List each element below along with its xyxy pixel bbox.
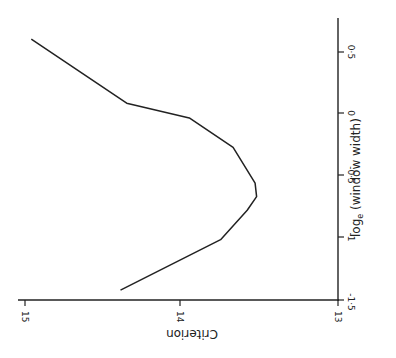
criterion-curve [31, 39, 256, 290]
y-axis-title: Criterion [166, 327, 218, 341]
x-tick-label: 0·5 [346, 45, 356, 59]
x-tick-label: -1·5 [346, 293, 356, 311]
x-axis-title: loge (window width) [349, 118, 365, 237]
chart-canvas: 0·5 0 -0·5 -1 -1·5 15 14 13 loge (window… [0, 0, 396, 358]
y-tick-label: 14 [175, 311, 185, 323]
y-axis-ticks [25, 300, 338, 306]
y-tick-labels: 15 14 13 [20, 311, 343, 323]
x-axis-ticks [338, 52, 344, 300]
x-tick-label: 0 [346, 110, 356, 116]
y-tick-label: 13 [333, 311, 343, 322]
y-tick-label: 15 [20, 311, 30, 322]
